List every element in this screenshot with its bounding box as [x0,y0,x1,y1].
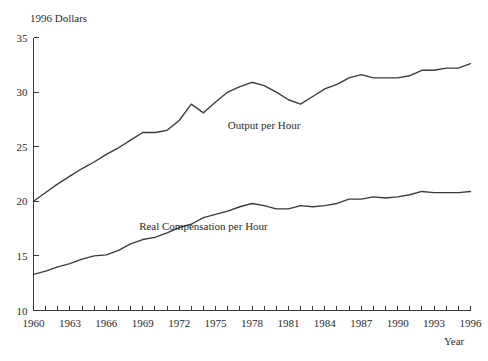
series-label-real-compensation-per-hour: Real Compensation per Hour [139,220,268,232]
y-tick-label-25: 25 [17,141,29,153]
x-tick-label-1975: 1975 [205,317,228,329]
series-label-output-per-hour: Output per Hour [228,119,301,131]
chart-container: 101520253035 196019631966196919721975197… [0,0,488,361]
x-axis-title: Year [444,335,465,347]
axis-group [34,38,471,311]
y-tick-label-15: 15 [17,250,29,262]
x-tick-label-1984: 1984 [314,317,337,329]
y-axis-title: 1996 Dollars [30,12,87,24]
x-tick-label-1981: 1981 [277,317,299,329]
y-tick-label-10: 10 [17,305,29,317]
y-axis-tick-labels: 101520253035 [17,32,29,317]
economic-line-chart: 101520253035 196019631966196919721975197… [0,0,488,361]
x-tick-label-1990: 1990 [387,317,410,329]
y-tick-label-30: 30 [17,86,29,98]
x-tick-label-1960: 1960 [23,317,46,329]
x-tick-label-1987: 1987 [350,317,373,329]
x-tick-label-1972: 1972 [168,317,190,329]
series-annotation-labels: Output per HourReal Compensation per Hou… [139,119,301,231]
y-tick-label-20: 20 [17,195,29,207]
x-tick-label-1969: 1969 [132,317,155,329]
series-line-output-per-hour [34,64,471,202]
series-paths-group [34,64,471,275]
series-line-real-compensation-per-hour [34,191,471,274]
x-axis-tick-labels: 1960196319661969197219751978198119841987… [23,317,483,329]
y-tick-label-35: 35 [17,32,29,44]
x-tick-label-1996: 1996 [460,317,483,329]
x-tick-label-1963: 1963 [59,317,82,329]
x-tick-label-1978: 1978 [241,317,264,329]
x-tick-label-1966: 1966 [95,317,118,329]
x-tick-label-1993: 1993 [423,317,446,329]
x-axis-ticks [34,306,471,311]
y-axis-ticks [34,38,39,311]
